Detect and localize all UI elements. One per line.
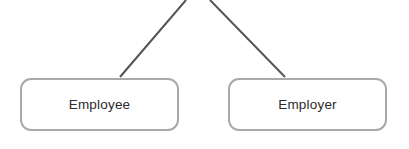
- node-employee[interactable]: Employee: [20, 78, 179, 131]
- node-employer[interactable]: Employer: [228, 78, 387, 131]
- node-employee-label: Employee: [69, 98, 131, 112]
- diagram-canvas: Employee Employer: [0, 0, 409, 149]
- node-employer-label: Employer: [278, 98, 337, 112]
- connector-to-employee: [120, 0, 186, 77]
- connector-to-employer: [210, 0, 285, 77]
